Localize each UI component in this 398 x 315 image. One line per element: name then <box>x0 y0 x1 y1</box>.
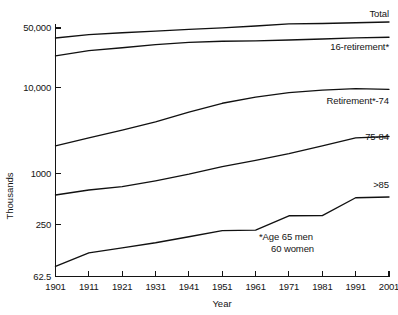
line-chart: 50,00010,000100025062.5 1901191119211931… <box>0 0 398 315</box>
x-axis-title: Year <box>212 298 231 309</box>
y-tick-label: 50,000 <box>23 22 51 33</box>
x-tick-label: 1951 <box>212 281 232 292</box>
x-tick-label: 1971 <box>279 281 299 292</box>
y-tick-label: 10,000 <box>23 82 51 93</box>
series-label-retirement-74: Retirement*-74 <box>327 95 390 106</box>
x-tick-label: 2001 <box>379 281 398 292</box>
footnote-line-1: *Age 65 men <box>259 231 313 242</box>
chart-container: 50,00010,000100025062.5 1901191119211931… <box>0 0 398 315</box>
series-label--85: >85 <box>373 179 389 190</box>
x-tick-label: 1981 <box>312 281 332 292</box>
footnote-line-2: 60 women <box>271 243 314 254</box>
y-tick-label: 250 <box>36 219 51 230</box>
x-tick-label: 1931 <box>145 281 165 292</box>
y-axis-title: Thousands <box>4 172 15 219</box>
x-tick-label: 1901 <box>45 281 65 292</box>
series-label-total: Total <box>369 8 389 19</box>
x-tick-label: 1941 <box>179 281 199 292</box>
y-tick-label: 1000 <box>31 168 51 179</box>
x-tick-label: 1991 <box>345 281 365 292</box>
series-label-16-retirement-: 16-retirement* <box>330 41 389 52</box>
series-label-75-84: 75-84 <box>365 131 389 142</box>
x-tick-label: 1911 <box>79 281 99 292</box>
x-tick-label: 1961 <box>245 281 265 292</box>
x-tick-label: 1921 <box>112 281 132 292</box>
